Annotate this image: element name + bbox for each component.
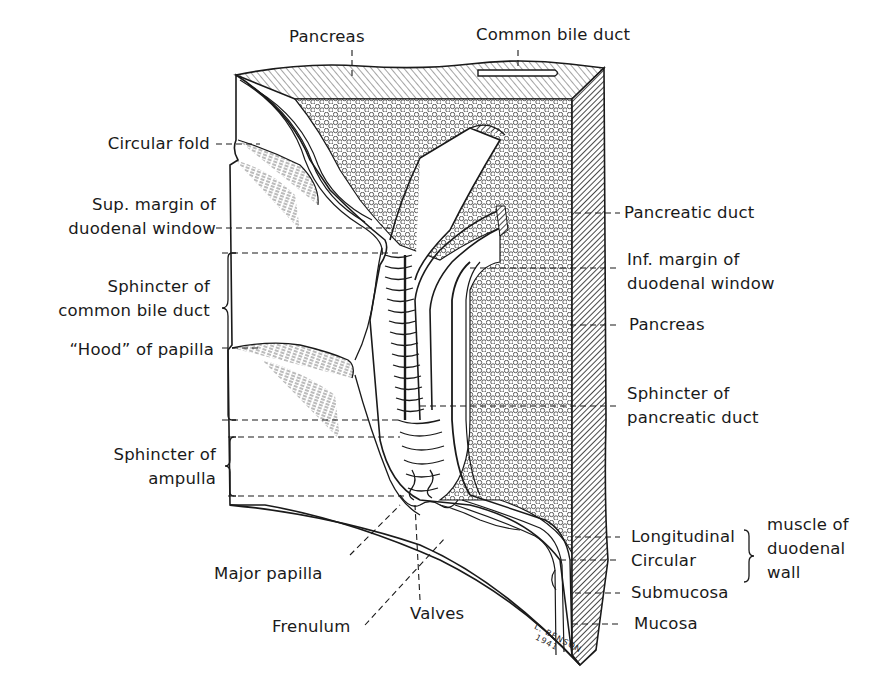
- label-line: Submucosa: [631, 581, 729, 605]
- common-bile-duct-lumen-top: [478, 70, 558, 76]
- label-pancreas-right: Pancreas: [629, 313, 705, 337]
- label-pancreas-top: Pancreas: [289, 25, 365, 49]
- label-line: duodenal: [767, 537, 849, 561]
- label-line: common bile duct: [58, 299, 210, 323]
- label-line: wall: [767, 561, 849, 585]
- label-line: Sup. margin of: [68, 193, 216, 217]
- label-line: Circular fold: [108, 132, 210, 156]
- label-line: duodenal window: [68, 217, 216, 241]
- label-line: Inf. margin of: [627, 248, 775, 272]
- label-muscle-of-duodenal-wall: muscle of duodenal wall: [767, 513, 849, 585]
- label-line: Circular: [631, 549, 696, 573]
- label-line: Pancreatic duct: [624, 201, 754, 225]
- label-inf-margin-duodenal-window: Inf. margin of duodenal window: [627, 248, 775, 296]
- label-valves: Valves: [410, 602, 464, 626]
- label-frenulum: Frenulum: [272, 615, 351, 639]
- label-major-papilla: Major papilla: [214, 562, 323, 586]
- label-line: Sphincter of: [58, 275, 210, 299]
- label-line: Sphincter of: [114, 443, 216, 467]
- label-line: duodenal window: [627, 272, 775, 296]
- pancreas-side-face: [572, 68, 608, 665]
- label-line: Sphincter of: [627, 382, 759, 406]
- label-line: “Hood” of papilla: [70, 338, 214, 362]
- pancreas-top-surface: [236, 61, 604, 99]
- label-common-bile-duct: Common bile duct: [476, 23, 630, 47]
- label-pancreatic-duct: Pancreatic duct: [624, 201, 754, 225]
- label-line: pancreatic duct: [627, 406, 759, 430]
- anatomy-figure: Pancreas Common bile duct Circular fold …: [0, 0, 887, 676]
- label-sup-margin-duodenal-window: Sup. margin of duodenal window: [68, 193, 216, 241]
- label-sphincter-pancreatic-duct: Sphincter of pancreatic duct: [627, 382, 759, 430]
- label-mucosa: Mucosa: [634, 612, 698, 636]
- label-circular: Circular: [631, 549, 696, 573]
- label-line: Mucosa: [634, 612, 698, 636]
- label-hood-of-papilla: “Hood” of papilla: [70, 338, 214, 362]
- label-sphincter-common-bile-duct: Sphincter of common bile duct: [58, 275, 210, 323]
- brace-muscle-of-wall: [744, 530, 754, 582]
- label-longitudinal: Longitudinal: [631, 525, 735, 549]
- label-line: Pancreas: [629, 313, 705, 337]
- label-line: muscle of: [767, 513, 849, 537]
- label-submucosa: Submucosa: [631, 581, 729, 605]
- label-sphincter-ampulla: Sphincter of ampulla: [114, 443, 216, 491]
- label-line: Longitudinal: [631, 525, 735, 549]
- label-line: ampulla: [114, 467, 216, 491]
- label-circular-fold: Circular fold: [108, 132, 210, 156]
